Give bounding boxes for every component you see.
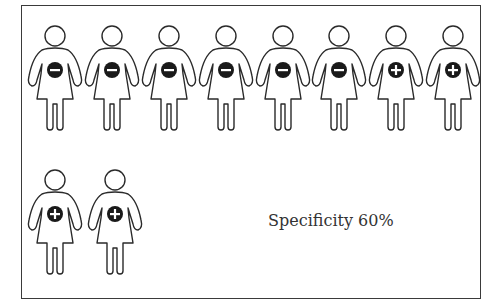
- woman-icon: +: [25, 168, 85, 280]
- person-figure-positive: +: [366, 24, 426, 136]
- person-figure-negative: −: [309, 24, 369, 136]
- person-figure-negative: −: [139, 24, 199, 136]
- minus-icon: [334, 69, 344, 71]
- minus-icon: [107, 69, 117, 71]
- minus-icon: [221, 69, 231, 71]
- person-figure-negative: −: [82, 24, 142, 136]
- svg-text:+: +: [423, 24, 424, 25]
- woman-icon: −: [196, 24, 256, 136]
- svg-text:+: +: [85, 168, 86, 169]
- woman-icon: −: [82, 24, 142, 136]
- minus-icon: [50, 69, 60, 71]
- minus-icon: [278, 69, 288, 71]
- person-figure-negative: −: [196, 24, 256, 136]
- person-figure-negative: −: [253, 24, 313, 136]
- woman-icon: −: [253, 24, 313, 136]
- woman-icon: −: [309, 24, 369, 136]
- woman-icon: +: [366, 24, 426, 136]
- person-figure-negative: −: [25, 24, 85, 136]
- woman-icon: −: [139, 24, 199, 136]
- person-figure-positive: +: [423, 24, 483, 136]
- woman-icon: +: [85, 168, 145, 280]
- svg-text:+: +: [25, 168, 26, 169]
- specificity-caption: Specificity 60%: [268, 211, 394, 230]
- svg-text:+: +: [366, 24, 367, 25]
- person-figure-positive: +: [25, 168, 85, 280]
- person-figure-positive: +: [85, 168, 145, 280]
- woman-icon: −: [25, 24, 85, 136]
- minus-icon: [164, 69, 174, 71]
- woman-icon: +: [423, 24, 483, 136]
